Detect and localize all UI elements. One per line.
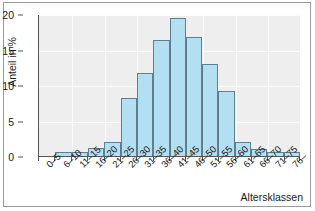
plot-area: [38, 15, 300, 157]
bar-cell: [55, 15, 71, 156]
x-label-cell: 16–20: [87, 162, 103, 208]
x-label-cell: 6–10: [54, 162, 70, 208]
bar-cell: [284, 15, 300, 156]
y-tick-mark: [18, 50, 23, 51]
x-label-cell: 41–45: [169, 162, 185, 208]
y-axis-title: Anteil in %: [6, 17, 18, 107]
x-label-cell: 21–25: [104, 162, 120, 208]
bar-cell: [39, 15, 55, 156]
bar-cell: [251, 15, 267, 156]
bar-cell: [170, 15, 186, 156]
bar-cell: [235, 15, 251, 156]
bars-group: [39, 15, 300, 156]
bar-cell: [267, 15, 283, 156]
y-tick-label: 5: [8, 116, 14, 128]
x-label-cell: 46–50: [185, 162, 201, 208]
bar-cell: [202, 15, 218, 156]
bar: [153, 40, 169, 156]
x-label-cell: 51–55: [202, 162, 218, 208]
bar-cell: [104, 15, 120, 156]
y-tick-mark: [18, 15, 23, 16]
bar-cell: [153, 15, 169, 156]
y-tick-label: 0: [8, 151, 14, 163]
y-tick-mark: [18, 157, 23, 158]
bar: [170, 18, 186, 156]
bar-cell: [121, 15, 137, 156]
x-label-cell: 56–60: [218, 162, 234, 208]
x-axis-title: Altersklassen: [241, 191, 303, 203]
bar-cell: [218, 15, 234, 156]
x-label-cell: 0–5: [38, 162, 54, 208]
bar-cell: [88, 15, 104, 156]
x-label-cell: 26–30: [120, 162, 136, 208]
bar-cell: [186, 15, 202, 156]
x-label-cell: 36–40: [153, 162, 169, 208]
x-label-cell: 11–15: [71, 162, 87, 208]
x-tick-mark: [38, 157, 39, 161]
bar-cell: [72, 15, 88, 156]
y-tick-mark: [18, 121, 23, 122]
histogram-figure: 05101520 Anteil in % 0–56–1011–1516–2021…: [0, 0, 315, 211]
y-tick-mark: [18, 86, 23, 87]
bar-cell: [137, 15, 153, 156]
x-label-cell: 31–35: [136, 162, 152, 208]
bar: [186, 37, 202, 156]
